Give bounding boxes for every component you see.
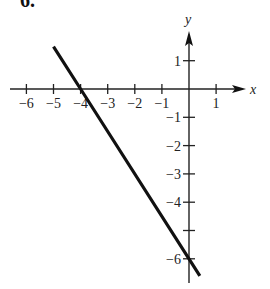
x-tick-label: −5	[46, 96, 61, 111]
data-line	[54, 47, 200, 276]
x-tick-label: −6	[19, 96, 34, 111]
x-tick-label: 1	[213, 96, 220, 111]
x-tick-label: −3	[100, 96, 115, 111]
y-tick-label: −3	[166, 167, 181, 182]
x-axis-label: x	[249, 82, 257, 97]
y-axis-label: y	[183, 12, 192, 27]
y-tick-label: −6	[166, 252, 181, 267]
y-tick-label: −1	[166, 110, 181, 125]
y-tick-label: 1	[174, 54, 181, 69]
x-tick-label: −2	[127, 96, 142, 111]
graph: xy−6−5−4−3−2−111−1−2−3−4−6	[0, 0, 270, 289]
y-tick-label: −2	[166, 139, 181, 154]
x-tick-label: −1	[154, 96, 169, 111]
y-tick-label: −4	[166, 195, 181, 210]
